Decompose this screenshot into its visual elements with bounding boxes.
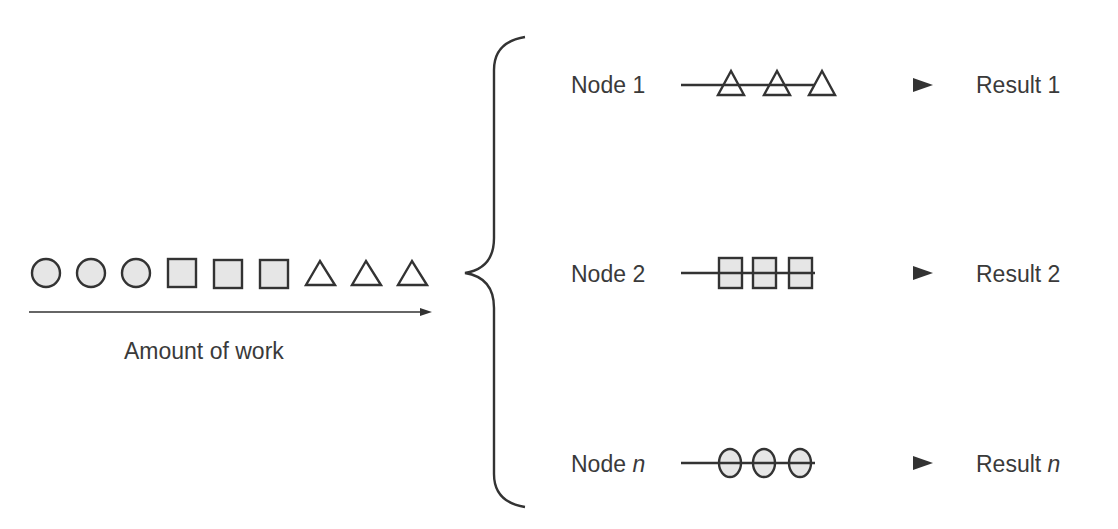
- node-2-label: Node 2: [571, 261, 645, 288]
- curly-brace: [465, 37, 525, 507]
- work-queue: [32, 259, 427, 288]
- square-icon: [260, 260, 288, 288]
- square-icon: [214, 260, 242, 288]
- result-2-label: Result 2: [976, 261, 1060, 288]
- circle-icon: [32, 259, 60, 287]
- result-1-label: Result 1: [976, 72, 1060, 99]
- node-n-label: Node n: [571, 451, 645, 478]
- square-icon: [168, 259, 196, 287]
- triangle-icon: [764, 71, 790, 95]
- circle-icon: [77, 259, 105, 287]
- circle-icon: [122, 259, 150, 287]
- node-1-work: [718, 71, 835, 95]
- result-n-label: Result n: [976, 451, 1060, 478]
- amount-of-work-arrow: [29, 308, 432, 316]
- result-arrows: [681, 78, 933, 470]
- triangle-icon: [306, 261, 335, 285]
- diagram-canvas: [0, 0, 1118, 529]
- triangle-icon: [809, 71, 835, 95]
- amount-of-work-label: Amount of work: [124, 338, 284, 365]
- node-1-label: Node 1: [571, 72, 645, 99]
- triangle-icon: [352, 261, 381, 285]
- triangle-icon: [398, 261, 427, 285]
- triangle-icon: [718, 71, 744, 95]
